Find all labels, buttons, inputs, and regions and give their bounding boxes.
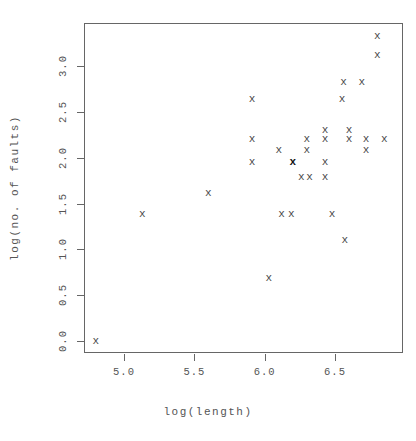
y-tick-mark	[77, 66, 84, 67]
data-point: x	[139, 208, 146, 219]
y-tick-mark	[77, 204, 84, 205]
y-tick-label: 0.0	[52, 335, 74, 347]
y-tick-label: 3.0	[52, 60, 74, 72]
scatter-plot-figure: log(no. of faults) log(length) xxxxxxxxx…	[0, 0, 416, 441]
y-tick-label: 2.5	[52, 106, 74, 118]
y-tick-mark	[77, 295, 84, 296]
data-point: x	[266, 272, 273, 283]
y-tick-label-text: 1.0	[57, 238, 69, 260]
data-point: x	[275, 145, 282, 156]
x-tick-mark	[335, 354, 336, 361]
y-tick-mark	[77, 112, 84, 113]
data-point: x	[278, 208, 285, 219]
data-point: x	[304, 145, 311, 156]
y-tick-mark	[77, 341, 84, 342]
y-tick-label-text: 2.0	[57, 147, 69, 169]
data-point: x	[381, 134, 388, 145]
data-points-layer: xxxxxxxxxxxxxxxxxxxxxxxxxxxxxxx	[84, 23, 403, 353]
data-point: x	[288, 208, 295, 219]
data-point: x	[363, 145, 370, 156]
y-tick-label: 1.5	[52, 198, 74, 210]
x-tick-label: 5.0	[113, 366, 135, 378]
data-point: x	[342, 235, 349, 246]
x-tick-label: 6.5	[324, 366, 346, 378]
data-point: x	[249, 157, 256, 168]
data-point: x	[298, 171, 305, 182]
y-tick-label: 1.0	[52, 243, 74, 255]
data-point: x	[306, 171, 313, 182]
data-point: x	[205, 188, 212, 199]
y-axis-title: log(no. of faults)	[9, 115, 21, 261]
data-point: x	[339, 94, 346, 105]
x-tick-mark	[194, 354, 195, 361]
data-point: x	[322, 157, 329, 168]
y-tick-mark	[77, 158, 84, 159]
data-point: x	[249, 134, 256, 145]
x-axis-title: log(length)	[0, 406, 416, 418]
y-tick-label-text: 0.0	[57, 330, 69, 352]
x-tick-label: 6.0	[254, 366, 276, 378]
data-point: x	[346, 134, 353, 145]
data-point: x	[249, 94, 256, 105]
data-point: x	[93, 336, 100, 347]
data-point: x	[374, 30, 381, 41]
data-point: x	[358, 76, 365, 87]
x-tick-mark	[124, 354, 125, 361]
x-tick-mark	[265, 354, 266, 361]
data-point: x	[374, 50, 381, 61]
data-point: x	[329, 208, 336, 219]
y-tick-mark	[77, 249, 84, 250]
data-point: x	[340, 76, 347, 87]
y-tick-label: 0.5	[52, 289, 74, 301]
data-point-highlighted: x	[289, 157, 296, 168]
y-tick-label: 2.0	[52, 152, 74, 164]
data-point: x	[322, 134, 329, 145]
y-tick-label-text: 2.5	[57, 101, 69, 123]
y-tick-label-text: 3.0	[57, 55, 69, 77]
y-axis-title-wrap: log(no. of faults)	[0, 0, 30, 441]
x-tick-label: 5.5	[183, 366, 205, 378]
data-point: x	[322, 171, 329, 182]
y-tick-label-text: 1.5	[57, 193, 69, 215]
y-tick-label-text: 0.5	[57, 284, 69, 306]
